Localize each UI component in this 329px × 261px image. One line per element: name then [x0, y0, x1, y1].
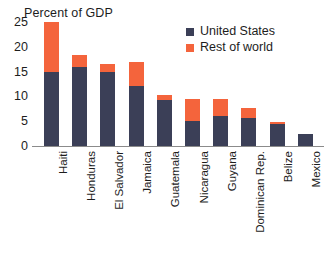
- x-tick-label: Honduras: [85, 151, 97, 201]
- bar-column: [185, 22, 200, 146]
- y-tick-label: 10: [14, 90, 28, 103]
- bar-column: [129, 22, 144, 146]
- bar-segment-united-states: [157, 100, 172, 146]
- bar-column: [44, 22, 59, 146]
- x-tick-label-slot: Jamaica: [129, 149, 144, 259]
- x-tick-label: El Salvador: [114, 151, 126, 210]
- x-tick-label-slot: Mexico: [298, 149, 313, 259]
- bar-chart: Percent of GDP United StatesRest of worl…: [0, 0, 329, 261]
- bar-segment-rest-of-world: [72, 55, 87, 67]
- bar-segment-united-states: [72, 67, 87, 146]
- bar-column: [100, 22, 115, 146]
- bar-segment-rest-of-world: [270, 122, 285, 124]
- bar-column: [72, 22, 87, 146]
- bar-segment-rest-of-world: [157, 95, 172, 100]
- x-tick-label: Mexico: [311, 151, 323, 187]
- x-tick-label: Guyana: [226, 151, 238, 191]
- bar-segment-united-states: [100, 72, 115, 146]
- bar-segment-united-states: [241, 118, 256, 146]
- x-tick-label: Guatemala: [170, 151, 182, 207]
- x-tick-label-slot: Haiti: [44, 149, 59, 259]
- x-tick-label-slot: Nicaragua: [185, 149, 200, 259]
- bar-column: [157, 22, 172, 146]
- x-tick-label-slot: Guatemala: [157, 149, 172, 259]
- chart-title: Percent of GDP: [24, 6, 113, 20]
- bar-segment-rest-of-world: [185, 99, 200, 121]
- bar-segment-united-states: [298, 134, 313, 146]
- x-tick-label: Nicaragua: [198, 151, 210, 203]
- bar-segment-rest-of-world: [241, 108, 256, 118]
- y-tick-label: 0: [21, 140, 28, 153]
- x-tick-label-slot: El Salvador: [100, 149, 115, 259]
- x-tick-label-slot: Guyana: [213, 149, 228, 259]
- bar-segment-united-states: [185, 121, 200, 146]
- x-axis-line: [32, 146, 324, 147]
- x-tick-label: Belize: [283, 151, 295, 182]
- y-tick-label: 5: [21, 115, 28, 128]
- bar-segment-united-states: [270, 124, 285, 146]
- bar-column: [298, 22, 313, 146]
- plot-area: [32, 22, 322, 146]
- bar-segment-united-states: [44, 72, 59, 146]
- bar-segment-rest-of-world: [44, 22, 59, 72]
- bar-segment-rest-of-world: [129, 62, 144, 87]
- bar-column: [270, 22, 285, 146]
- bar-column: [241, 22, 256, 146]
- bar-segment-united-states: [213, 116, 228, 146]
- bar-segment-rest-of-world: [213, 99, 228, 116]
- x-tick-label: Dominican Rep.: [255, 151, 267, 233]
- x-tick-label: Haiti: [57, 151, 69, 174]
- x-tick-label-slot: Belize: [270, 149, 285, 259]
- y-tick-label: 25: [14, 16, 28, 29]
- y-tick-label: 15: [14, 65, 28, 78]
- bar-column: [213, 22, 228, 146]
- x-tick-label-slot: Dominican Rep.: [241, 149, 256, 259]
- x-tick-label-slot: Honduras: [72, 149, 87, 259]
- bar-segment-rest-of-world: [100, 64, 115, 72]
- y-axis-tick-labels: 0510152025: [0, 0, 28, 261]
- bar-segment-united-states: [129, 86, 144, 146]
- y-tick-label: 20: [14, 41, 28, 54]
- x-axis-tick-labels: HaitiHondurasEl SalvadorJamaicaGuatemala…: [32, 149, 322, 261]
- x-tick-label: Jamaica: [142, 151, 154, 194]
